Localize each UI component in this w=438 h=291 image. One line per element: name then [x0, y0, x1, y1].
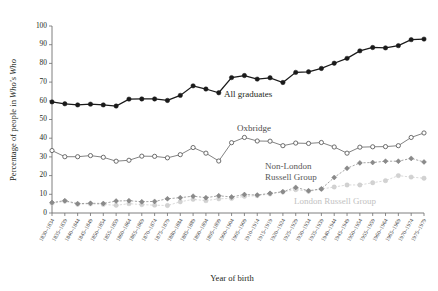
line-chart: 0102030405060708090100 1830–18341835–183… [0, 0, 438, 291]
y-tick-label: 80 [40, 58, 48, 67]
series-label-non-london-russell-group-line2: Russell Group [265, 172, 317, 182]
x-axis-title: Year of birth [210, 273, 254, 283]
y-tick-label: 100 [36, 21, 47, 30]
y-tick-label: 0 [43, 208, 47, 217]
series-label-oxbridge: Oxbridge [237, 123, 271, 133]
y-axis: 0102030405060708090100 [36, 21, 52, 217]
series-label-all-graduates: All graduates [224, 89, 273, 99]
x-axis: 1830–18341835–18391840–18441845–18491850… [38, 213, 428, 242]
series-oxbridge [50, 131, 426, 163]
y-tick-label: 40 [40, 133, 48, 142]
y-tick-label: 70 [40, 77, 48, 86]
series-label-london-russell-group: London Russell Group [294, 196, 376, 206]
chart-container: 0102030405060708090100 1830–18341835–183… [0, 0, 438, 291]
y-tick-label: 60 [40, 96, 48, 105]
y-axis-title: Percentage of people in Who's Who [8, 58, 18, 181]
y-tick-label: 90 [40, 39, 48, 48]
series-label-non-london-russell-group-line1: Non-London [265, 161, 312, 171]
y-tick-label: 10 [40, 189, 48, 198]
y-tick-label: 50 [40, 114, 48, 123]
y-tick-label: 30 [40, 152, 48, 161]
y-tick-label: 20 [40, 170, 48, 179]
